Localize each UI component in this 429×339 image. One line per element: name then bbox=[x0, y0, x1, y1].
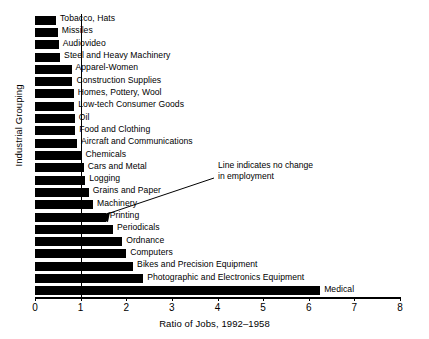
x-axis-tick-label: 1 bbox=[69, 302, 93, 313]
bar bbox=[35, 262, 133, 271]
bar bbox=[35, 237, 122, 246]
bar bbox=[35, 114, 75, 123]
bar-label: Logging bbox=[89, 174, 120, 183]
bar-row: Ordnance bbox=[35, 237, 400, 246]
bar-label: Food and Clothing bbox=[79, 125, 150, 134]
bar-label: Photographic and Electronics Equipment bbox=[147, 273, 304, 282]
bar bbox=[35, 65, 72, 74]
bar bbox=[35, 89, 74, 98]
bar bbox=[35, 249, 126, 258]
x-axis-tick bbox=[400, 297, 401, 301]
bar bbox=[35, 126, 75, 135]
bar-label: Printing bbox=[110, 211, 140, 220]
x-axis-tick bbox=[172, 297, 173, 301]
bar-row: Periodicals bbox=[35, 225, 400, 234]
bar bbox=[35, 16, 56, 25]
bar-row: Food and Clothing bbox=[35, 126, 400, 135]
x-axis-tick-label: 8 bbox=[388, 302, 412, 313]
bar-label: Apparel-Women bbox=[76, 63, 139, 72]
bar-row: Machinery bbox=[35, 200, 400, 209]
x-axis-tick bbox=[35, 297, 36, 301]
bar-label: Medical bbox=[324, 285, 354, 294]
x-axis-title: Ratio of Jobs, 1992–1958 bbox=[0, 318, 429, 329]
x-axis-tick-label: 6 bbox=[297, 302, 321, 313]
x-axis-tick-label: 4 bbox=[206, 302, 230, 313]
x-axis-tick bbox=[81, 297, 82, 301]
bar bbox=[35, 200, 93, 209]
x-axis-tick bbox=[126, 297, 127, 301]
x-axis-tick-label: 7 bbox=[342, 302, 366, 313]
reference-line-annotation: Line indicates no change in employment bbox=[218, 160, 313, 182]
x-axis-tick-label: 0 bbox=[23, 302, 47, 313]
bar-label: Bikes and Precision Equipment bbox=[137, 260, 257, 269]
bar-row: Tobacco, Hats bbox=[35, 16, 400, 25]
y-axis-title: Industrial Grouping bbox=[13, 56, 24, 196]
bar bbox=[35, 225, 113, 234]
bar-label: Oil bbox=[79, 113, 90, 122]
bar bbox=[35, 286, 320, 295]
bar-label: Cars and Metal bbox=[88, 162, 147, 171]
bar-row: Homes, Pottery, Wool bbox=[35, 89, 400, 98]
x-axis-tick-label: 5 bbox=[251, 302, 275, 313]
bar-label: Homes, Pottery, Wool bbox=[78, 88, 162, 97]
bar bbox=[35, 53, 60, 62]
x-axis-tick bbox=[218, 297, 219, 301]
bar-label: Computers bbox=[130, 248, 172, 257]
bar-row: Missiles bbox=[35, 28, 400, 37]
bar-row: Apparel-Women bbox=[35, 65, 400, 74]
bar-label: Aircraft and Communications bbox=[81, 137, 193, 146]
x-axis-tick-label: 3 bbox=[160, 302, 184, 313]
bar-label: Machinery bbox=[97, 199, 137, 208]
bar bbox=[35, 188, 89, 197]
bar-label: Periodicals bbox=[117, 223, 160, 232]
x-axis-tick bbox=[263, 297, 264, 301]
bar-row: Oil bbox=[35, 114, 400, 123]
bar-label: Grains and Paper bbox=[93, 186, 161, 195]
annotation-line-2: in employment bbox=[218, 171, 313, 182]
bar bbox=[35, 163, 84, 172]
x-axis-tick bbox=[309, 297, 310, 301]
bar bbox=[35, 139, 77, 148]
bar bbox=[35, 40, 59, 49]
bar bbox=[35, 102, 74, 111]
x-axis-tick bbox=[354, 297, 355, 301]
bar bbox=[35, 77, 72, 86]
bar bbox=[35, 28, 58, 37]
bar-row: Medical bbox=[35, 286, 400, 295]
bar-label: Ordnance bbox=[126, 236, 164, 245]
bar-row: Chemicals bbox=[35, 151, 400, 160]
horizontal-bar-chart: Industrial Grouping Tobacco, HatsMissile… bbox=[0, 0, 429, 339]
bar bbox=[35, 274, 143, 283]
plot-area: Tobacco, HatsMissilesAudiovideoSteel and… bbox=[35, 14, 400, 297]
bar-label: Audiovideo bbox=[63, 39, 106, 48]
bar bbox=[35, 151, 82, 160]
bar-row: Construction Supplies bbox=[35, 77, 400, 86]
x-axis-tick-label: 2 bbox=[114, 302, 138, 313]
bar-label: Low-tech Consumer Goods bbox=[78, 100, 184, 109]
bar-row: Computers bbox=[35, 249, 400, 258]
bar-row: Grains and Paper bbox=[35, 188, 400, 197]
bar bbox=[35, 176, 85, 185]
bar-label: Steel and Heavy Machinery bbox=[64, 51, 170, 60]
bar-row: Photographic and Electronics Equipment bbox=[35, 274, 400, 283]
bar-label: Construction Supplies bbox=[76, 76, 161, 85]
bar-row: Audiovideo bbox=[35, 40, 400, 49]
bar-row: Low-tech Consumer Goods bbox=[35, 102, 400, 111]
bar-row: Printing bbox=[35, 213, 400, 222]
bar-row: Bikes and Precision Equipment bbox=[35, 262, 400, 271]
bar bbox=[35, 213, 106, 222]
bar-label: Tobacco, Hats bbox=[60, 14, 115, 23]
annotation-line-1: Line indicates no change bbox=[218, 160, 313, 171]
bar-row: Steel and Heavy Machinery bbox=[35, 53, 400, 62]
bar-label: Chemicals bbox=[86, 150, 127, 159]
bar-label: Missiles bbox=[62, 26, 93, 35]
bar-row: Aircraft and Communications bbox=[35, 139, 400, 148]
